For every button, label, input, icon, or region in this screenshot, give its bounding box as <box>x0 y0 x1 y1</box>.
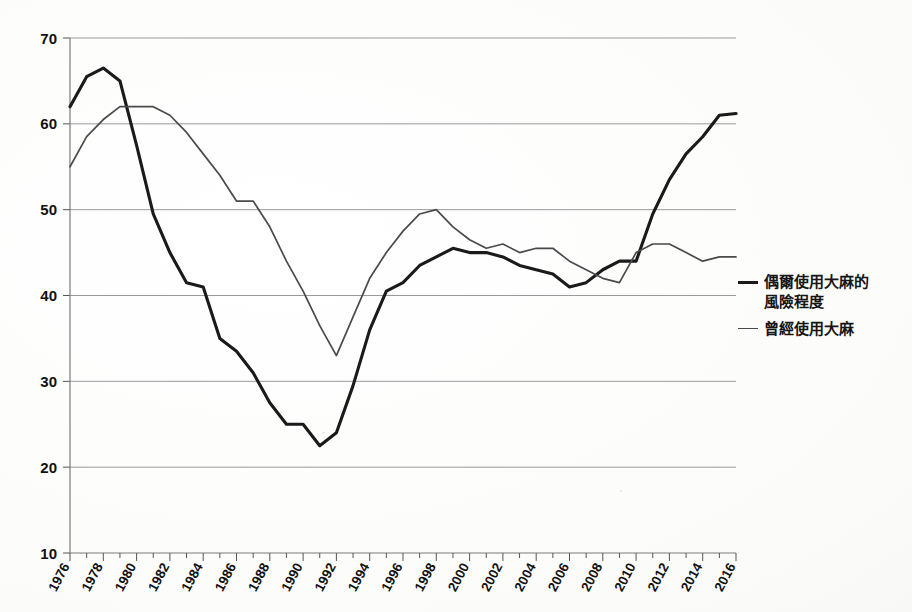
x-tick-label: 2014 <box>678 560 706 594</box>
x-tick-label: 1996 <box>378 560 406 594</box>
data-series-layer <box>70 68 736 446</box>
y-tick-label: 30 <box>40 373 57 390</box>
x-tick-label: 1986 <box>212 560 240 594</box>
series-line-occasional-risk <box>70 68 736 446</box>
legend-swatch-bold-line <box>738 281 758 284</box>
series-line-ever-used <box>70 107 736 356</box>
y-tick-label: 40 <box>40 287 57 304</box>
x-tick-label: 1976 <box>45 560 73 594</box>
x-tick-label: 2010 <box>611 560 638 594</box>
x-tick-label: 1978 <box>79 560 107 594</box>
y-tick-label: 20 <box>40 459 57 476</box>
chart-legend: 偶爾使用大麻的 風險程度 曾經使用大麻 <box>738 272 910 346</box>
axis-layer <box>63 38 736 561</box>
legend-label-ever-used: 曾經使用大麻 <box>764 319 854 339</box>
x-tick-label: 1998 <box>412 560 440 594</box>
x-tick-label: 2012 <box>645 560 672 594</box>
x-tick-label: 2002 <box>478 560 505 594</box>
legend-item-occasional-risk: 偶爾使用大麻的 風險程度 <box>738 272 910 312</box>
x-tick-label: 2004 <box>511 560 539 594</box>
x-tick-label: 2008 <box>578 560 606 594</box>
x-tick-label: 1982 <box>145 560 172 594</box>
y-tick-label: 60 <box>40 115 57 132</box>
y-tick-label: 10 <box>40 545 57 562</box>
legend-swatch-thin-line <box>738 328 758 329</box>
y-tick-label: 50 <box>40 201 57 218</box>
y-axis-tick-labels: 10203040506070 <box>40 30 57 562</box>
x-tick-label: 1984 <box>178 560 206 594</box>
x-tick-label: 2006 <box>545 560 573 594</box>
x-tick-label: 1990 <box>278 560 305 594</box>
x-tick-label: 1988 <box>245 560 273 594</box>
legend-label-occasional-risk: 偶爾使用大麻的 風險程度 <box>764 272 869 312</box>
x-tick-label: 1992 <box>312 560 339 594</box>
x-axis-tick-labels: 1976197819801982198419861988199019921994… <box>45 560 739 594</box>
x-tick-label: 2000 <box>445 560 472 594</box>
x-tick-label: 1994 <box>345 560 373 594</box>
x-tick-label: 1980 <box>112 560 139 594</box>
x-tick-label: 2016 <box>711 560 739 594</box>
legend-item-ever-used: 曾經使用大麻 <box>738 319 910 339</box>
chart-container: 10203040506070 1976197819801982198419861… <box>0 0 912 612</box>
y-tick-label: 70 <box>40 30 57 47</box>
